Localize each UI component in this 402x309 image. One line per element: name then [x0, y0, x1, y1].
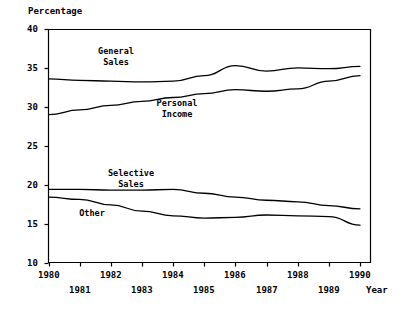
- series-line-general-sales: [49, 66, 361, 82]
- series-line-selective-sales: [49, 189, 361, 208]
- axis-lines: [48, 29, 371, 263]
- chart-canvas: [0, 0, 402, 309]
- line-chart-figure: Percentage 40 35 30 25 20 15 10 1980 198…: [0, 0, 402, 309]
- series-line-personal-income: [49, 76, 361, 115]
- data-series-lines: [49, 66, 361, 226]
- series-line-other: [49, 197, 361, 225]
